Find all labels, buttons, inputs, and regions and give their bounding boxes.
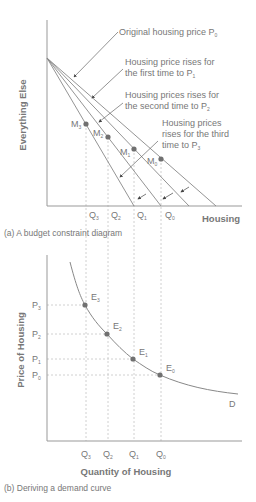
caption-b: (b) Deriving a demand curve bbox=[4, 483, 112, 493]
x-axis-label-a: Housing bbox=[202, 213, 240, 224]
point-e1 bbox=[130, 356, 135, 361]
point-e3 bbox=[82, 302, 87, 307]
label-demand-d: D bbox=[229, 399, 236, 409]
label-e3: E3 bbox=[91, 292, 100, 303]
point-m2 bbox=[105, 134, 110, 139]
point-m0 bbox=[158, 156, 163, 161]
y-axis-label-a: Everything Else bbox=[17, 79, 28, 150]
label-m1: M1 bbox=[120, 147, 131, 158]
label-e1: E1 bbox=[139, 347, 148, 358]
caption-a: (a) A budget constraint diagram bbox=[4, 228, 122, 238]
equilibrium-points-e bbox=[82, 302, 162, 377]
y-axis-label-b: Price of Housing bbox=[15, 312, 26, 388]
tick-p0: P0 bbox=[32, 370, 41, 381]
annotation-p0: Original housing price P0 bbox=[119, 27, 218, 38]
label-e2: E2 bbox=[113, 321, 122, 332]
panel-b-demand-curve: E3 E2 E1 E0 D P3 P2 P1 P0 Q3 Q2 Q1 Q0 Qu… bbox=[4, 255, 242, 493]
point-e0 bbox=[157, 372, 162, 377]
tick-q3-a: Q3 bbox=[89, 210, 99, 221]
tick-q2-a: Q2 bbox=[111, 210, 121, 221]
tick-p2: P2 bbox=[32, 329, 41, 340]
tick-p1: P1 bbox=[32, 354, 41, 365]
demand-derivation-diagram: Original housing price P0 Housing price … bbox=[0, 0, 256, 502]
tick-q1-b: Q1 bbox=[129, 449, 139, 460]
point-m3 bbox=[83, 121, 88, 126]
budget-line-p2 bbox=[47, 58, 161, 206]
tick-q1-a: Q1 bbox=[137, 210, 147, 221]
point-m1 bbox=[131, 146, 136, 151]
demand-curve bbox=[70, 262, 238, 394]
point-e2 bbox=[104, 331, 109, 336]
label-m0: M0 bbox=[147, 156, 158, 167]
tick-q0-b: Q0 bbox=[156, 449, 166, 460]
annotation-p2: Housing prices rises for the second time… bbox=[125, 90, 222, 112]
label-e0: E0 bbox=[166, 363, 175, 374]
budget-line-p3 bbox=[47, 58, 134, 206]
x-axis-label-b: Quantity of Housing bbox=[81, 466, 172, 477]
tick-q2-b: Q2 bbox=[103, 449, 113, 460]
tick-q0-a: Q0 bbox=[165, 210, 175, 221]
tick-p3: P3 bbox=[32, 300, 41, 311]
horizontal-guides bbox=[47, 305, 160, 375]
annotation-p3: Housing prices rises for the third time … bbox=[162, 118, 232, 151]
vertical-guides bbox=[86, 124, 161, 441]
annotation-p1: Housing price rises for the first time t… bbox=[125, 57, 217, 79]
tick-q3-b: Q3 bbox=[81, 449, 91, 460]
shift-arrows bbox=[138, 187, 189, 199]
label-m3: M3 bbox=[71, 119, 82, 130]
